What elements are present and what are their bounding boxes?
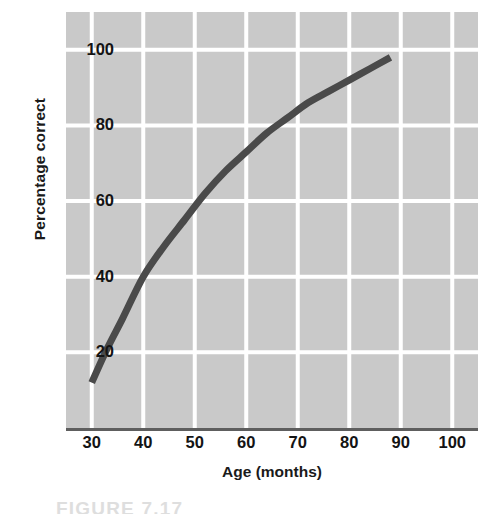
data-series-group — [92, 57, 391, 382]
vertical-gridlines — [92, 12, 453, 428]
data-line — [92, 57, 391, 382]
x-tick-label: 90 — [375, 434, 427, 451]
y-tick-label: 60 — [70, 192, 114, 209]
y-tick-label: 100 — [70, 41, 114, 58]
y-tick-label: 20 — [70, 343, 114, 360]
x-tick-label: 50 — [169, 434, 221, 451]
x-tick-label: 40 — [117, 434, 169, 451]
x-tick-label: 70 — [272, 434, 324, 451]
figure-caption-cutoff: FIGURE 7.17 — [56, 498, 183, 514]
figure-container: Percentage correct 20406080100 304050607… — [0, 0, 494, 514]
x-axis-title: Age (months) — [66, 463, 478, 481]
x-tick-label: 80 — [323, 434, 375, 451]
y-tick-label: 80 — [70, 116, 114, 133]
y-tick-label: 40 — [70, 268, 114, 285]
x-tick-label: 60 — [220, 434, 272, 451]
x-axis-line — [66, 428, 478, 431]
chart-plot-svg — [66, 12, 478, 428]
y-axis-title: Percentage correct — [31, 39, 49, 299]
x-tick-label: 100 — [426, 434, 478, 451]
x-tick-label: 30 — [66, 434, 118, 451]
plot-area — [66, 12, 478, 428]
